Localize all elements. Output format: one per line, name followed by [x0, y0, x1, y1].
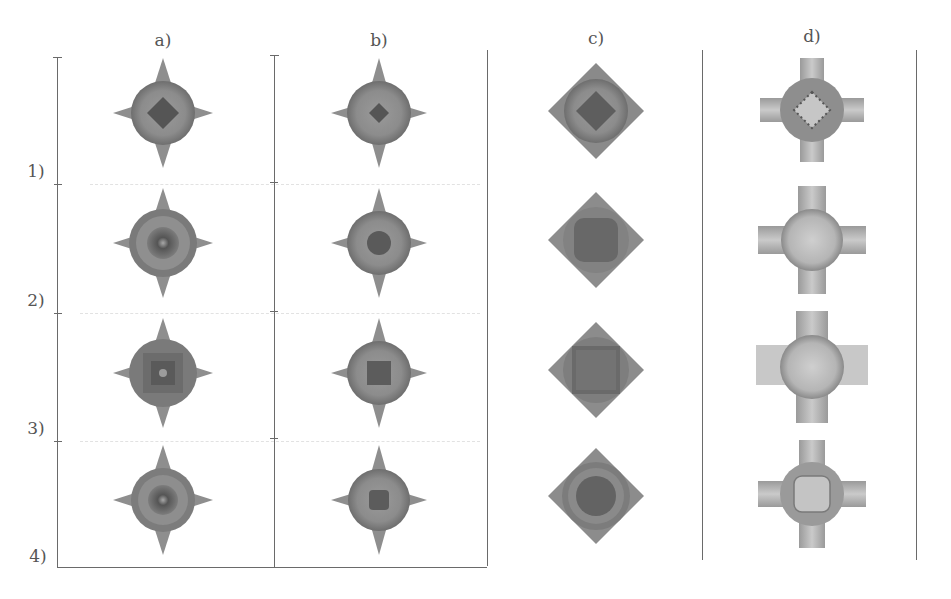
- divider-bc: [487, 50, 488, 566]
- spiked-sphere-icon: [103, 313, 223, 433]
- cylinder-sphere-icon: [752, 307, 872, 427]
- spiked-sphere-icon: [319, 440, 439, 560]
- cell-d4: [752, 434, 872, 554]
- cylinder-sphere-icon: [752, 180, 872, 300]
- divider-cd: [702, 50, 703, 560]
- cell-a1: [103, 53, 223, 173]
- cell-a2: [103, 183, 223, 303]
- divider-ab-cap: [270, 55, 279, 56]
- cell-c4: [536, 436, 656, 556]
- spiked-sphere-icon: [319, 183, 439, 303]
- row-tick-2: [54, 313, 62, 314]
- row-tick-3: [54, 441, 62, 442]
- column-label-b: b): [370, 30, 388, 50]
- cell-b1: [319, 53, 439, 173]
- bottom-axis: [57, 567, 487, 568]
- cell-b3: [319, 313, 439, 433]
- cell-b2: [319, 183, 439, 303]
- row-label-1: 1): [27, 161, 44, 181]
- spiked-sphere-icon: [103, 183, 223, 303]
- row-label-2: 2): [27, 290, 44, 310]
- cell-a4: [103, 440, 223, 560]
- octahedron-icon: [536, 51, 656, 171]
- cell-b4: [319, 440, 439, 560]
- cell-a3: [103, 313, 223, 433]
- row-label-4: 4): [29, 546, 46, 566]
- column-label-a: a): [155, 30, 172, 50]
- cylinder-sphere-icon: [752, 434, 872, 554]
- cell-d3: [752, 307, 872, 427]
- spiked-sphere-icon: [103, 53, 223, 173]
- left-axis: [57, 57, 58, 567]
- octahedron-icon: [536, 310, 656, 430]
- right-border: [916, 50, 917, 560]
- spiked-sphere-icon: [103, 440, 223, 560]
- row-tick-1: [54, 184, 62, 185]
- row-label-3: 3): [27, 418, 44, 438]
- row-tick-2b: [270, 311, 278, 312]
- column-label-d: d): [803, 26, 821, 46]
- cell-c2: [536, 180, 656, 300]
- octahedron-icon: [536, 180, 656, 300]
- cylinder-sphere-icon: [752, 50, 872, 170]
- cell-c3: [536, 310, 656, 430]
- column-label-c: c): [588, 28, 604, 48]
- row-tick-1b: [270, 182, 278, 183]
- cell-d2: [752, 180, 872, 300]
- cell-c1: [536, 51, 656, 171]
- spiked-sphere-icon: [319, 313, 439, 433]
- row-tick-3b: [270, 438, 278, 439]
- octahedron-icon: [536, 436, 656, 556]
- cell-d1: [752, 50, 872, 170]
- spiked-sphere-icon: [319, 53, 439, 173]
- left-axis-cap: [53, 57, 62, 58]
